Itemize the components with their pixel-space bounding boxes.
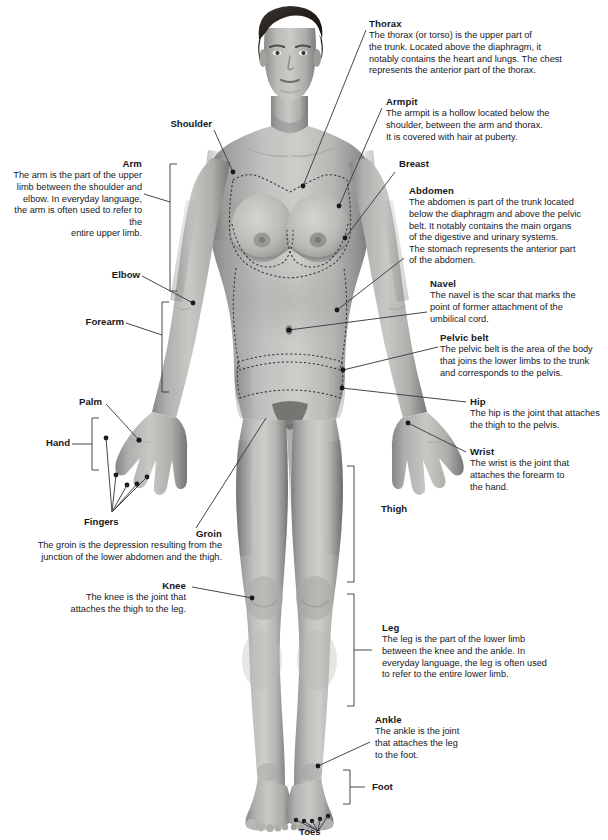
callout-abdomen: Abdomen The abdomen is part of the trunk… xyxy=(409,185,605,267)
callout-elbow-title: Elbow xyxy=(112,269,140,280)
callout-wrist-title: Wrist xyxy=(470,446,598,458)
callout-hand: Hand xyxy=(14,437,70,449)
feet-group xyxy=(246,778,334,832)
callout-thigh-title: Thigh xyxy=(381,503,407,514)
callout-fingers-title: Fingers xyxy=(84,516,119,527)
torso-group xyxy=(205,126,375,430)
callout-leg-body: The leg is the part of the lower limb be… xyxy=(382,634,572,680)
callout-hip-title: Hip xyxy=(470,396,606,408)
callout-fingers: Fingers xyxy=(84,516,119,528)
callout-navel: Navel The navel is the scar that marks t… xyxy=(430,278,602,325)
callout-thorax-body: The thorax (or torso) is the upper part … xyxy=(369,30,601,76)
callout-wrist: Wrist The wrist is the joint that attach… xyxy=(470,446,598,493)
callout-abdomen-body: The abdomen is part of the trunk located… xyxy=(409,197,605,267)
callout-forearm: Forearm xyxy=(42,316,124,328)
anatomy-diagram-page: Thorax The thorax (or torso) is the uppe… xyxy=(0,0,608,840)
callout-armpit: Armpit The armpit is a hollow located be… xyxy=(386,96,602,143)
callout-armpit-title: Armpit xyxy=(386,96,602,108)
callout-navel-body: The navel is the scar that marks the poi… xyxy=(430,290,602,325)
callout-groin-body: The groin is the depression resulting fr… xyxy=(4,540,222,563)
callout-foot-title: Foot xyxy=(372,781,393,792)
callout-elbow: Elbow xyxy=(62,269,140,281)
legs-group xyxy=(236,420,343,786)
callout-thorax: Thorax The thorax (or torso) is the uppe… xyxy=(369,18,601,77)
callout-abdomen-title: Abdomen xyxy=(409,185,605,197)
callout-palm-title: Palm xyxy=(79,396,102,407)
callout-hip-body: The hip is the joint that attaches the t… xyxy=(470,408,606,431)
callout-ankle-title: Ankle xyxy=(375,714,495,726)
callout-leg-title: Leg xyxy=(382,622,572,634)
callout-arm: Arm The arm is the part of the upper lim… xyxy=(6,158,142,240)
callout-toes: Toes xyxy=(299,826,321,838)
callout-arm-title: Arm xyxy=(6,158,142,170)
callout-ankle-body: The ankle is the joint that attaches the… xyxy=(375,726,495,761)
callout-hip: Hip The hip is the joint that attaches t… xyxy=(470,396,606,432)
callout-thigh: Thigh xyxy=(381,503,407,515)
callout-breast-title: Breast xyxy=(399,158,429,169)
callout-shoulder-title: Shoulder xyxy=(170,118,212,129)
callout-pelvic-belt: Pelvic belt The pelvic belt is the area … xyxy=(440,332,606,379)
callout-ankle: Ankle The ankle is the joint that attach… xyxy=(375,714,495,761)
callout-armpit-body: The armpit is a hollow located below the… xyxy=(386,108,602,143)
callout-knee-title: Knee xyxy=(18,580,186,592)
callout-palm: Palm xyxy=(40,396,102,408)
callout-forearm-title: Forearm xyxy=(86,316,124,327)
callout-navel-title: Navel xyxy=(430,278,602,290)
callout-foot: Foot xyxy=(372,781,393,793)
head-group xyxy=(258,6,323,135)
callout-thorax-title: Thorax xyxy=(369,18,601,30)
callout-leg: Leg The leg is the part of the lower lim… xyxy=(382,622,572,681)
callout-groin-title: Groin xyxy=(4,528,222,540)
callout-wrist-body: The wrist is the joint that attaches the… xyxy=(470,458,598,493)
callout-arm-body: The arm is the part of the upper limb be… xyxy=(6,170,142,240)
callout-knee: Knee The knee is the joint that attaches… xyxy=(18,580,186,616)
callout-hand-title: Hand xyxy=(46,437,70,448)
callout-pelvic-belt-body: The pelvic belt is the area of the body … xyxy=(440,344,606,379)
callout-shoulder: Shoulder xyxy=(112,118,212,130)
callout-toes-title: Toes xyxy=(299,826,321,837)
callout-pelvic-belt-title: Pelvic belt xyxy=(440,332,606,344)
callout-knee-body: The knee is the joint that attaches the … xyxy=(18,592,186,615)
callout-breast: Breast xyxy=(399,158,429,170)
callout-groin: Groin The groin is the depression result… xyxy=(4,528,222,564)
